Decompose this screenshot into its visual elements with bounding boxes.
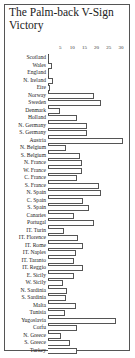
- category-label: N. Sardinia: [21, 287, 46, 295]
- bar-row: S. France: [0, 182, 135, 190]
- bar: [48, 145, 66, 151]
- bar: [48, 190, 101, 196]
- x-axis-ticks: 51015202530: [0, 45, 135, 53]
- bar-row: Sweden: [0, 99, 135, 107]
- bar-row: N. Belgium: [0, 144, 135, 152]
- bar-row: Corfu: [0, 324, 135, 332]
- bar: [48, 288, 67, 294]
- category-label: Tunisia: [29, 309, 46, 317]
- category-label: Corfu: [33, 324, 46, 332]
- bar-row: IT. Taranto: [0, 257, 135, 265]
- bar-row: Holland: [0, 114, 135, 122]
- bar: [48, 220, 94, 226]
- bar: [48, 93, 94, 99]
- category-label: N. Spain: [26, 189, 46, 197]
- category-label: N. Belgium: [20, 144, 46, 152]
- bar-row: N. Sardinia: [0, 287, 135, 295]
- bar-row: Scotland: [0, 54, 135, 62]
- bar: [48, 348, 77, 354]
- category-label: Malta: [33, 302, 46, 310]
- category-label: Norway: [28, 92, 46, 100]
- category-label: IT. Reggio: [22, 264, 46, 272]
- bar-row: IT. Naples: [0, 249, 135, 257]
- category-label: IT. Taranto: [21, 257, 46, 265]
- bar: [48, 108, 60, 114]
- x-tick-label: 20: [94, 45, 99, 50]
- bar-row: S. Greece: [0, 339, 135, 347]
- bar-row: S. Spain: [0, 204, 135, 212]
- bar: [48, 303, 76, 309]
- bar: [48, 310, 65, 316]
- bar: [48, 198, 83, 204]
- bar-row: N. Greece: [0, 332, 135, 340]
- bar-row: IT. Florence: [0, 234, 135, 242]
- bar-row: C. Spain: [0, 197, 135, 205]
- bar: [48, 63, 52, 69]
- category-label: W. Sicily: [25, 279, 46, 287]
- bar: [48, 85, 50, 91]
- bar-row: W. France: [0, 167, 135, 175]
- category-label: N. France: [24, 159, 46, 167]
- bar: [48, 175, 77, 181]
- bar-row: S. Germany: [0, 129, 135, 137]
- bar-row: N. Ireland: [0, 77, 135, 85]
- bar: [48, 243, 83, 249]
- category-label: S. Spain: [27, 204, 46, 212]
- category-label: England: [27, 69, 46, 77]
- bar: [48, 213, 74, 219]
- bar: [48, 183, 99, 189]
- category-label: IT. Florence: [19, 234, 46, 242]
- category-label: Holland: [28, 114, 46, 122]
- bar: [48, 228, 64, 234]
- category-label: C. France: [24, 174, 46, 182]
- bar-rows: ScotlandWalesEnglandN. IrelandEireNorway…: [0, 54, 135, 354]
- category-label: C. Spain: [27, 197, 46, 205]
- category-label: Scotland: [26, 54, 46, 62]
- category-label: S. France: [25, 182, 46, 190]
- bar: [48, 153, 80, 159]
- category-label: IT. Naples: [23, 249, 46, 257]
- bar: [48, 273, 74, 279]
- category-label: Canaries: [26, 212, 46, 220]
- category-label: S. Sardinia: [21, 294, 46, 302]
- category-label: Denmark: [25, 107, 46, 115]
- bar: [48, 340, 70, 346]
- category-label: W. France: [23, 167, 46, 175]
- bar-row: Turkey: [0, 347, 135, 355]
- bar-row: W. Sicily: [0, 279, 135, 287]
- bar-row: Wales: [0, 62, 135, 70]
- category-label: Austria: [30, 137, 46, 145]
- x-tick-label: 15: [82, 45, 87, 50]
- bar: [48, 160, 82, 166]
- x-tick-label: 5: [59, 45, 62, 50]
- chart-title: The Palm-back V-Sign Victory: [9, 6, 129, 32]
- bar-row: England: [0, 69, 135, 77]
- bar: [48, 115, 77, 121]
- bar-row: Eire: [0, 84, 135, 92]
- bar-row: N. France: [0, 159, 135, 167]
- bar: [48, 325, 77, 331]
- category-label: Portugal: [27, 219, 46, 227]
- category-label: N. Ireland: [23, 77, 46, 85]
- bar: [48, 205, 89, 211]
- bar-row: Canaries: [0, 212, 135, 220]
- bar: [48, 100, 101, 106]
- category-label: Eire: [37, 84, 46, 92]
- bar: [48, 168, 82, 174]
- bar-row: Tunisia: [0, 309, 135, 317]
- bar-row: Austria: [0, 137, 135, 145]
- bar: [48, 130, 87, 136]
- category-label: N. Greece: [23, 332, 46, 340]
- category-label: S. Germany: [19, 129, 46, 137]
- bar: [48, 78, 53, 84]
- bar: [48, 333, 61, 339]
- category-label: S. Greece: [24, 339, 46, 347]
- bar: [48, 280, 63, 286]
- bar-row: N. Germany: [0, 122, 135, 130]
- x-tick-label: 30: [118, 45, 123, 50]
- x-tick-label: 10: [70, 45, 75, 50]
- category-label: Sweden: [28, 99, 46, 107]
- bar-row: S. Sardinia: [0, 294, 135, 302]
- category-label: IT. Turin: [26, 227, 46, 235]
- bar: [48, 55, 49, 61]
